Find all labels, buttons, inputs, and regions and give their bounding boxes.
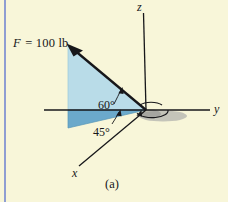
force-label: F = 100 lb (13, 37, 69, 50)
axis-z-label: z (137, 1, 142, 13)
axis-z-line (144, 13, 147, 110)
force-diagram-figure: F = 100 lb 60° 45° z y x (a) (0, 0, 228, 202)
angle-45-label: 45° (93, 126, 110, 138)
figure-caption: (a) (105, 178, 119, 191)
force-symbol: F (13, 36, 22, 50)
force-value-text: = 100 lb (22, 36, 69, 50)
angle-60-label: 60° (98, 99, 115, 111)
axis-y-label: y (214, 103, 219, 115)
axis-x-label: x (72, 167, 77, 179)
